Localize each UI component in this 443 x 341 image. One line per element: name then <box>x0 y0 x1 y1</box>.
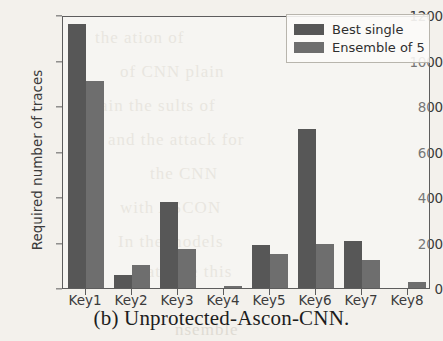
bar-group <box>114 17 150 288</box>
bar-key5-best-single <box>252 245 270 288</box>
x-tick-mark <box>269 289 270 295</box>
legend-label: Ensemble of 5 <box>332 40 425 55</box>
figure-caption: (b) Unprotected-Ascon-CNN. <box>0 306 443 331</box>
bar-key2-best-single <box>114 275 132 288</box>
legend-label: Best single <box>332 22 403 37</box>
legend-item: Ensemble of 5 <box>294 39 422 56</box>
bar-key7-best-single <box>344 241 362 288</box>
bar-key4-ensemble-of-5 <box>224 286 242 288</box>
bar-group <box>68 17 104 288</box>
bar-key8-ensemble-of-5 <box>408 282 426 288</box>
bar-key3-best-single <box>160 202 178 288</box>
bar-key1-best-single <box>68 24 86 288</box>
bar-key6-ensemble-of-5 <box>316 244 334 288</box>
y-axis-label: Required number of traces <box>29 45 45 275</box>
x-tick-mark <box>177 289 178 295</box>
x-tick-mark <box>131 289 132 295</box>
bar-key7-ensemble-of-5 <box>362 260 380 288</box>
x-tick-mark <box>315 289 316 295</box>
bar-key3-ensemble-of-5 <box>178 249 196 288</box>
bar-key2-ensemble-of-5 <box>132 265 150 288</box>
bar-group <box>206 17 242 288</box>
bar-group <box>160 17 196 288</box>
legend: Best singleEnsemble of 5 <box>286 14 430 63</box>
legend-swatch-icon <box>294 42 324 53</box>
x-tick-mark <box>407 289 408 295</box>
legend-item: Best single <box>294 21 422 38</box>
x-tick-mark <box>223 289 224 295</box>
bar-group <box>252 17 288 288</box>
legend-swatch-icon <box>294 24 324 35</box>
bar-key5-ensemble-of-5 <box>270 254 288 288</box>
bar-key1-ensemble-of-5 <box>86 81 104 288</box>
figure-unprotected-ascon-cnn: the ation ofof CNN plainain the sults of… <box>0 0 443 341</box>
bar-key6-best-single <box>298 129 316 288</box>
x-tick-mark <box>85 289 86 295</box>
x-tick-mark <box>361 289 362 295</box>
